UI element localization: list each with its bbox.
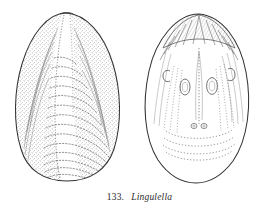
stipple-shading xyxy=(14,10,124,185)
caption-number: 133. xyxy=(107,192,124,202)
radiating-striae xyxy=(154,50,243,126)
pallial-arcs xyxy=(163,130,235,160)
figure-caption: 133.Lingulella xyxy=(0,191,279,203)
right-valve-interior xyxy=(145,10,250,183)
median-septum xyxy=(196,48,203,124)
small-paired-scars xyxy=(191,123,207,128)
vascular-markings xyxy=(164,64,234,133)
caption-genus-name: Lingulella xyxy=(131,192,172,202)
left-valve-exterior xyxy=(14,10,124,185)
specimen-illustration xyxy=(0,0,279,215)
hatched-beak-area xyxy=(150,10,250,52)
figure-plate: 133.Lingulella xyxy=(0,0,279,215)
paired-oval-muscle-scars xyxy=(180,78,217,95)
